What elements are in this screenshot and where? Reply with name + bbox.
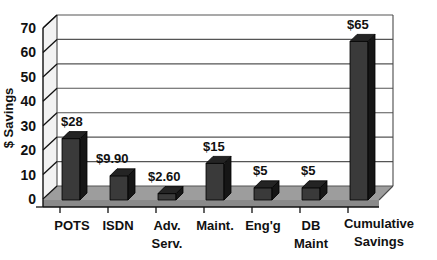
bar-value-label: $5 xyxy=(301,163,315,178)
bar-group xyxy=(206,156,231,200)
y-tick-label: 10 xyxy=(20,167,36,183)
bar-group xyxy=(350,34,375,200)
bar-value-label: $5 xyxy=(253,163,267,178)
bar-value-label: $15 xyxy=(203,139,225,154)
y-tick-label: 70 xyxy=(20,20,36,36)
category-label-line2: Serv. xyxy=(152,236,183,251)
bar-value-label: $28 xyxy=(61,114,83,129)
bar-value-label: $65 xyxy=(347,17,369,32)
y-axis-tick-labels: 70 60 50 40 30 20 10 0 xyxy=(20,20,36,207)
category-label: Cumulative xyxy=(344,216,414,231)
bar-chart-figure: 70 60 50 40 30 20 10 0 $ Savings xyxy=(0,0,437,260)
y-tick-label: 60 xyxy=(20,44,36,60)
x-axis-category-labels: POTS ISDN Adv. Serv. Maint. Eng'g DB Mai… xyxy=(54,216,414,251)
bar-group xyxy=(302,181,327,200)
bar-value-label: $9.90 xyxy=(96,151,129,166)
category-label: Adv. xyxy=(153,218,180,233)
bar-group xyxy=(110,169,135,200)
x-tick-marks xyxy=(60,207,348,213)
bar-group xyxy=(254,181,279,200)
y-tick-label: 50 xyxy=(20,69,36,85)
category-label-line2: Savings xyxy=(354,234,404,249)
left-side-wall xyxy=(43,15,57,207)
category-label: Eng'g xyxy=(245,218,281,233)
bar-group xyxy=(62,132,87,200)
y-tick-label: 0 xyxy=(28,191,36,207)
y-tick-label: 30 xyxy=(20,118,36,134)
category-label: ISDN xyxy=(102,218,133,233)
bar-value-label: $2.60 xyxy=(148,169,181,184)
category-label: Maint. xyxy=(196,218,234,233)
y-axis-title: $ Savings xyxy=(1,88,16,149)
category-label: POTS xyxy=(54,218,90,233)
y-tick-label: 40 xyxy=(20,93,36,109)
y-tick-label: 20 xyxy=(20,142,36,158)
chart-canvas: 70 60 50 40 30 20 10 0 $ Savings xyxy=(0,0,437,260)
floor-front xyxy=(43,200,379,207)
category-label: DB xyxy=(302,218,321,233)
category-label-line2: Maint xyxy=(294,236,329,251)
